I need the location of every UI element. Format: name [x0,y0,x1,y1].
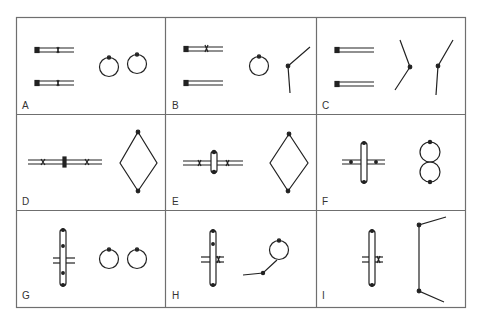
bracket-configuration-icon [419,217,446,302]
panel-e-drawing [183,132,308,193]
outer-frame [17,18,466,308]
ring-chromosome-icon [100,58,119,77]
panel-label-h: H [172,290,179,301]
ring-chromosome-icon [100,250,119,269]
rod-chromosome-icon [35,80,74,86]
ring-chromosome-icon [270,241,289,260]
bent-chromosome-icon [395,40,410,90]
ring-chromosome-icon [128,250,147,269]
v-chromosome-icon [288,47,310,93]
panel-label-d: D [22,196,29,207]
panel-d-drawing [28,130,157,193]
diamond-configuration-icon [270,134,308,191]
panel-g-drawing [53,229,147,287]
panel-i-drawing [362,217,446,302]
panel-label-f: F [322,196,328,207]
panel-b-drawing [184,45,310,93]
ring-chromosome-icon [128,55,147,74]
rod-chromosome-icon [35,47,74,53]
diamond-configuration-icon [120,132,157,191]
figure-eight-icon [420,142,440,162]
panel-label-b: B [172,100,179,111]
panel-label-a: A [22,100,29,111]
panel-c-drawing [335,40,453,95]
chromosome-configuration-figure [0,0,480,325]
panel-label-c: C [322,100,329,111]
panel-f-drawing [342,140,440,183]
panel-a-drawing [35,47,147,86]
panel-h-drawing [201,230,289,287]
panel-label-i: I [322,290,325,301]
tail-chromosome-icon [243,260,277,275]
panel-label-e: E [172,196,179,207]
ring-chromosome-icon [250,57,269,76]
panel-label-g: G [22,290,30,301]
